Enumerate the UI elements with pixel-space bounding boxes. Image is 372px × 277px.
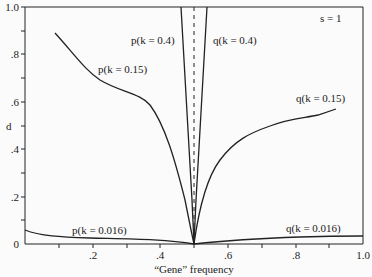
svg-text:.8: .8 <box>11 48 20 60</box>
svg-text:.4: .4 <box>11 143 20 155</box>
label-q-0.016: q(k = 0.016) <box>286 222 341 235</box>
chart: 1.0 .8 .6 .4 .2 0 .2 .4 .6 .8 1.0 “Gene”… <box>0 0 372 277</box>
svg-text:0: 0 <box>14 238 20 250</box>
svg-text:1.0: 1.0 <box>356 249 370 261</box>
label-p-0.15: p(k = 0.15) <box>98 63 148 76</box>
svg-text:.2: .2 <box>89 249 97 261</box>
y-axis-label: d <box>6 120 12 132</box>
svg-text:1.0: 1.0 <box>5 1 19 13</box>
x-axis-label: “Gene” frequency <box>154 263 234 275</box>
label-p-0.4: p(k = 0.4) <box>131 34 175 47</box>
svg-text:.6: .6 <box>11 96 20 108</box>
svg-text:.2: .2 <box>11 191 19 203</box>
y-axis-ticks <box>21 7 25 220</box>
x-tick-labels: .2 .4 .6 .8 1.0 <box>89 249 371 261</box>
svg-text:.8: .8 <box>292 249 301 261</box>
label-q-0.4: q(k = 0.4) <box>213 34 257 47</box>
x-axis-ticks <box>59 244 329 248</box>
svg-text:.4: .4 <box>156 249 165 261</box>
svg-text:.6: .6 <box>224 249 233 261</box>
parameter-annotation: s = 1 <box>320 12 341 24</box>
label-p-0.016: p(k = 0.016) <box>72 224 127 237</box>
curve-p-0.4 <box>181 7 194 244</box>
curve-q-0.016 <box>194 236 363 244</box>
label-q-0.15: q(k = 0.15) <box>296 92 346 105</box>
